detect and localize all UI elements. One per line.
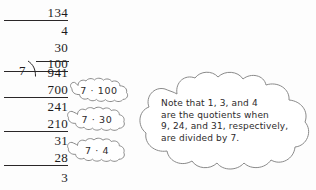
work-row: 31 — [4, 134, 68, 147]
work-row: 700 — [4, 83, 68, 98]
work-row: 210 — [4, 117, 68, 132]
callout-cloud-7-times-30: 7 · 30 — [67, 107, 127, 131]
callout-label: 7 · 30 — [67, 107, 127, 131]
division-vinculum — [36, 61, 69, 62]
note-line: Note that 1, 3, and 4 — [161, 98, 313, 110]
work-row: 28 — [4, 151, 68, 166]
note-line: are the quotients when — [161, 110, 313, 122]
partial-quotient-row: 4 — [4, 24, 68, 37]
note-line: 9, 24, and 31, respectively, — [161, 121, 313, 133]
callout-label: 7 · 100 — [67, 78, 131, 102]
partial-quotient-row: 30 — [4, 41, 68, 54]
remainder-row: 3 — [4, 171, 68, 184]
work-row: 241 — [4, 100, 68, 113]
dividend-row: 941 — [4, 66, 68, 79]
note-cloud: Note that 1, 3, and 4 are the quotients … — [137, 72, 313, 172]
partial-quotient-row: 134 — [4, 6, 68, 21]
note-text: Note that 1, 3, and 4 are the quotients … — [137, 72, 313, 172]
long-division-figure: 134 4 30 100 7 941 700 241 210 31 28 3 7… — [0, 0, 316, 190]
callout-cloud-7-times-100: 7 · 100 — [67, 78, 131, 102]
callout-label: 7 · 4 — [67, 138, 127, 162]
note-line: are divided by 7. — [161, 133, 313, 145]
callout-cloud-7-times-4: 7 · 4 — [67, 138, 127, 162]
